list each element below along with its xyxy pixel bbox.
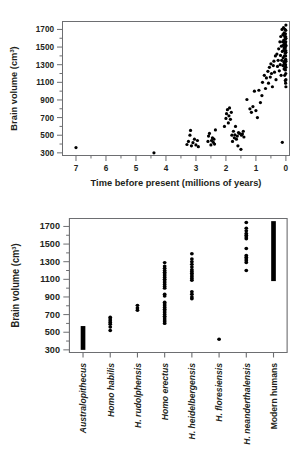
y-axis-title-top: Brain volume (cm3) [9,46,19,130]
data-point [225,112,228,115]
data-point [284,82,287,85]
data-point [280,74,283,77]
category-label-homo-habilis: Homo habilis [105,363,116,417]
data-point [227,114,230,117]
y-tick-label-top: 1300 [36,61,55,70]
y-tick-label-top: 1700 [36,25,55,34]
data-point [284,29,287,32]
y-tick-label-top: 300 [40,149,54,158]
data-point [230,111,233,114]
hominin-brain-volume-figure: Brain volume (cm3) 300500700900110013001… [0,0,301,476]
y-tick-label-bottom: 900 [45,292,60,301]
y-tick-label-bottom: 1700 [40,222,60,231]
data-point [272,64,275,67]
data-point [190,290,194,293]
data-point [229,118,232,121]
data-point [267,82,270,85]
data-point [193,138,196,141]
x-tick-label-top: 6 [104,164,109,173]
data-point [264,87,267,90]
data-point [209,143,212,146]
data-point [284,44,287,47]
data-point [163,264,167,267]
y-tick-label-bottom: 700 [45,310,60,319]
category-label-h-floresiensis: H. floresiensis [214,363,225,422]
x-tick-label-top: 3 [194,164,199,173]
data-point [230,134,233,137]
data-point [284,60,287,63]
data-points-bottom [81,221,276,350]
category-label-modern-humans: Modern humans [268,363,279,429]
data-point [269,75,272,78]
data-point [248,107,251,110]
data-point [228,106,231,109]
data-point [284,54,287,57]
y-axis-title-bottom: Brain volume (cm3) [9,243,21,327]
data-point [108,329,112,332]
data-point [244,269,248,272]
data-point [254,109,257,112]
data-point [284,85,287,88]
scatter-plot-species: Brain volume (cm3) 300500700900110013001… [0,205,301,476]
data-point [284,51,287,54]
data-point [244,247,248,250]
data-point [265,76,268,79]
data-point [190,252,194,255]
data-point [244,227,248,230]
data-point [239,148,242,151]
y-tick-label-bottom: 1500 [40,239,60,248]
y-tick-label-bottom: 300 [45,345,60,354]
data-point [152,151,155,154]
data-point [245,98,248,101]
data-point [275,53,278,56]
data-point [236,135,239,138]
data-point [208,132,211,135]
y-tick-label-bottom: 1100 [40,275,60,284]
data-point [284,23,287,26]
x-tick-label-top: 2 [224,164,229,173]
category-labels: AustralopithecusHomo habilisH. rudolphen… [78,363,279,445]
data-point [260,94,263,97]
data-point [187,140,190,143]
data-point [214,128,217,131]
data-point [284,78,287,81]
data-point [270,72,273,75]
category-label-homo-erectus: Homo erectus [160,363,171,420]
data-point [277,47,280,50]
data-point [274,78,277,81]
data-point [268,66,271,69]
data-point [213,142,216,145]
data-point [242,135,245,138]
data-point [74,146,77,149]
data-point [236,144,239,147]
x-axis-title-top: Time before present (millions of years) [91,178,262,188]
y-tick-label-top: 700 [40,114,54,123]
plot-frame-top [63,22,290,156]
category-label-h-neanderthalensis: H. neanderthalensis [241,363,252,445]
data-point [284,40,287,43]
category-label-australopithecus: Australopithecus [78,363,89,434]
data-point [189,129,192,132]
data-point [256,116,259,119]
data-point [234,125,237,128]
data-point [185,143,188,146]
data-point [278,69,281,72]
data-point [136,304,140,307]
data-point [196,139,199,142]
scatter-plot-time: Brain volume (cm3) 300500700900110013001… [0,0,301,205]
y-tick-label-top: 900 [40,96,54,105]
data-point [284,37,287,40]
data-point [235,138,238,141]
x-tick-label-top: 5 [134,164,139,173]
y-tick-label-bottom: 1300 [40,257,60,266]
category-label-h-heidelbergensis: H. heidelbergensis [187,363,198,439]
data-point [251,105,254,108]
data-point [257,89,260,92]
data-point [279,54,282,57]
data-point [263,74,266,77]
y-tick-label-top: 1100 [36,78,54,87]
data-point [271,85,274,88]
y-tick-label-top: 500 [40,131,54,140]
data-point [108,316,112,319]
chart-brain-volume-vs-time: Brain volume (cm3) 300500700900110013001… [0,0,301,205]
